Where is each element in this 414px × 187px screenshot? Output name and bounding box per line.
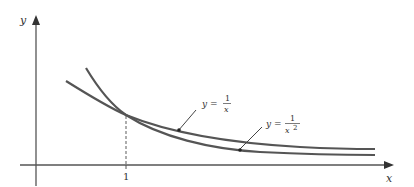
leader-dot-icon [238, 148, 242, 152]
curve-reciprocal [66, 81, 375, 149]
svg-text:y =: y = [201, 99, 218, 109]
tick-label-1: 1 [123, 171, 129, 182]
svg-text:x: x [285, 126, 290, 135]
graph-canvas: x y 1 y = 1 x y = 1 x 2 [0, 0, 414, 187]
curve-reciprocal-square [86, 68, 375, 155]
svg-text:x: x [224, 105, 229, 114]
leader-line [240, 127, 262, 149]
leader-line [178, 110, 196, 131]
svg-text:1: 1 [290, 114, 295, 123]
y-axis-arrow-icon [32, 15, 40, 25]
x-axis-arrow-icon [384, 161, 394, 169]
leader-dot-icon [177, 128, 181, 132]
svg-text:1: 1 [225, 94, 230, 103]
svg-text:y =: y = [265, 119, 282, 129]
x-axis-label: x [386, 172, 393, 185]
label-reciprocal: y = 1 x [177, 94, 231, 132]
y-axis-label: y [19, 14, 27, 27]
svg-text:2: 2 [293, 124, 297, 132]
